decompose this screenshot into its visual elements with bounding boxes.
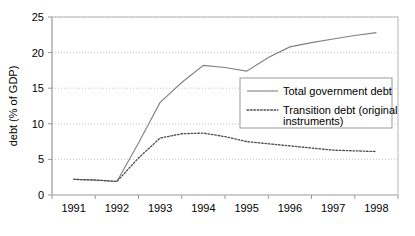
y-axis-tick-label: 5: [38, 153, 44, 165]
x-axis-ticks: [52, 195, 398, 199]
x-axis-tick-label: 1994: [191, 202, 215, 214]
x-axis-tick-label: 1997: [321, 202, 345, 214]
legend-label-total-government-debt: Total government debt: [283, 85, 392, 97]
x-axis-tick-label: 1991: [61, 202, 85, 214]
y-axis-title: debt (% of GDP): [7, 66, 19, 147]
y-axis-tick-label: 0: [38, 189, 44, 201]
y-axis-tick-label: 15: [32, 82, 44, 94]
y-axis-tick-label: 25: [32, 11, 44, 23]
x-axis-tick-label: 1992: [105, 202, 129, 214]
y-axis-tick-label: 20: [32, 47, 44, 59]
x-axis-tick-labels: 19911992199319941995199619971998: [61, 202, 388, 214]
x-axis-tick-label: 1995: [234, 202, 258, 214]
y-axis-tick-labels: 0510152025: [32, 11, 44, 201]
y-axis-tick-label: 10: [32, 118, 44, 130]
legend-label-transition-debt-line2: instruments): [283, 115, 344, 127]
chart-legend: Total government debt Transition debt (o…: [240, 78, 398, 128]
line-chart: 0510152025 19911992199319941995199619971…: [0, 0, 415, 236]
chart-container: 0510152025 19911992199319941995199619971…: [0, 0, 415, 236]
x-axis-tick-label: 1998: [364, 202, 388, 214]
x-axis-tick-label: 1996: [278, 202, 302, 214]
x-axis-tick-label: 1993: [148, 202, 172, 214]
